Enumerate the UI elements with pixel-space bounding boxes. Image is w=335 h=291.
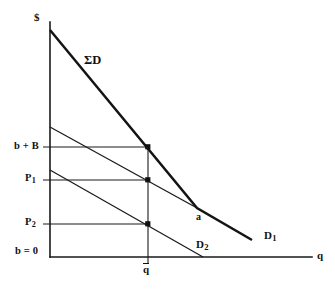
economics-demand-figure: $ q ΣD D1 D2 a b + B P1 P2 b = 0 q — [0, 0, 335, 291]
curve-label-demand-1: D1 — [264, 230, 276, 243]
y-tick-label-p1-base: P — [25, 172, 32, 183]
curve-demand-1-upper — [50, 127, 197, 208]
curve-label-sum-demand: ΣD — [84, 54, 102, 67]
curve-label-demand-2-base: D — [196, 238, 204, 250]
marker-sumD-at-qbar — [145, 144, 150, 149]
x-tick-label-q-bar-text: q — [143, 263, 149, 275]
y-tick-label-p1: P1 — [25, 173, 36, 185]
y-tick-label-p1-subscript: 1 — [32, 176, 36, 185]
y-axis-title: $ — [34, 12, 40, 23]
y-tick-label-p2-base: P — [25, 216, 32, 227]
y-tick-label-p2: P2 — [25, 217, 36, 229]
x-tick-label-q-bar: q — [143, 263, 149, 275]
curve-label-demand-1-subscript: 1 — [272, 233, 276, 243]
curve-label-demand-1-base: D — [264, 229, 272, 241]
point-label-a: a — [196, 212, 201, 222]
y-tick-label-p2-subscript: 2 — [32, 220, 36, 229]
curve-demand-2 — [50, 170, 203, 257]
y-tick-label-b-plus-B: b + B — [14, 141, 39, 152]
x-axis-title: q — [317, 250, 323, 261]
marker-D1-at-qbar — [145, 177, 150, 182]
curve-label-demand-2-subscript: 2 — [204, 242, 208, 252]
curve-label-demand-2: D2 — [196, 239, 208, 252]
chart-canvas — [0, 0, 335, 291]
curve-sum-demand — [50, 30, 252, 240]
y-tick-label-b-zero: b = 0 — [15, 246, 38, 257]
marker-D2-at-qbar — [145, 221, 150, 226]
